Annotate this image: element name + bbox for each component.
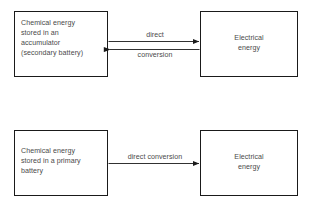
diagram-canvas: Chemical energy stored in an accumulator… bbox=[0, 0, 313, 205]
edge-direct-conversion-label: direct conversion bbox=[120, 153, 190, 163]
bottom-diagram-connectors bbox=[0, 0, 313, 205]
